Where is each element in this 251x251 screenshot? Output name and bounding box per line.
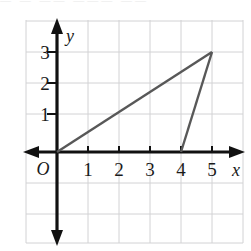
origin-label: O: [37, 159, 50, 179]
x-tick-label-1: 1: [83, 159, 93, 180]
x-tick-label-3: 3: [145, 159, 155, 180]
x-tick-label-2: 2: [114, 159, 124, 180]
triangle-side-right: [181, 52, 212, 152]
y-axis-arrow-down: [51, 230, 63, 246]
axis-labels: O x y: [37, 26, 241, 180]
coordinate-plane-figure: — — —— ——— ——: [0, 0, 251, 251]
y-axis-label: y: [64, 26, 74, 46]
graph-svg: 3 2 1 1 2 3 4 5 O x y: [0, 0, 251, 251]
x-axis-label: x: [231, 160, 240, 180]
triangle-side-hypotenuse: [57, 52, 212, 152]
y-tick-label-2: 2: [40, 73, 50, 94]
x-axis-arrow-left: [23, 146, 39, 158]
y-tick-label-3: 3: [40, 42, 50, 63]
y-tick-label-1: 1: [40, 104, 50, 125]
y-axis-arrow-up: [51, 18, 63, 34]
x-tick-label-4: 4: [176, 159, 186, 180]
tick-labels: 3 2 1 1 2 3 4 5: [40, 42, 217, 180]
x-tick-label-5: 5: [207, 159, 217, 180]
triangle-shape: [57, 52, 212, 152]
